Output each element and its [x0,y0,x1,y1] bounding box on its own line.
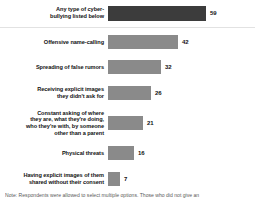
row-label-line: Physical threats [0,150,104,157]
table-row: Offensive name-calling 42 [0,32,255,52]
table-row: Having explicit images of them shared wi… [0,168,255,189]
bar-value-label: 32 [165,64,172,70]
row-label-line: Spreading of false rumors [0,64,104,71]
table-row: Any type of cyber- bullying listed below… [0,3,255,23]
bar-value-label: 59 [210,10,217,16]
table-row: Physical threats 16 [0,143,255,163]
row-label: Constant asking of where they are, what … [0,110,108,136]
bar [108,116,143,130]
table-row: Constant asking of where they are, what … [0,107,255,139]
row-label: Having explicit images of them shared wi… [0,172,108,185]
row-label-line: Receiving explicit images [0,86,104,93]
bar-area: 59 [108,3,255,23]
row-label-line: bullying listed below [0,13,104,20]
row-label: Any type of cyber- bullying listed below [0,6,108,19]
bar-value-label: 16 [138,150,145,156]
bar-area: 16 [108,143,255,163]
row-label-line: Having explicit images of them [0,172,104,179]
bar-chart: Any type of cyber- bullying listed below… [0,0,255,199]
bar-area: 7 [108,168,255,189]
bar-value-label: 21 [147,120,154,126]
bar-area: 26 [108,82,255,103]
bar [108,172,120,186]
bar [108,146,134,160]
table-row: Spreading of false rumors 32 [0,57,255,77]
row-label: Offensive name-calling [0,39,108,46]
row-label: Physical threats [0,150,108,157]
table-row: Receiving explicit images they didn't as… [0,82,255,103]
row-label-line: shared without their consent [0,179,104,186]
chart-rows: Any type of cyber- bullying listed below… [0,3,255,189]
row-label-line: Any type of cyber- [0,6,104,13]
bar [108,6,206,21]
chart-note: Note: Respondents were allowed to select… [5,192,253,198]
row-label-line: Constant asking of where [0,110,104,117]
bar-value-label: 7 [124,176,127,182]
bar [108,86,151,100]
bar-area: 32 [108,57,255,77]
bar [108,35,178,49]
row-label-line: Offensive name-calling [0,39,104,46]
row-label: Receiving explicit images they didn't as… [0,86,108,99]
bar-value-label: 42 [182,39,189,45]
bar-area: 21 [108,107,255,139]
bar-value-label: 26 [155,90,162,96]
row-label-line: other than a parent [0,130,104,137]
row-label-line: who they're with, by someone [0,123,104,130]
bar [108,60,161,74]
row-label-line: they are, what they're doing, [0,116,104,123]
bar-area: 42 [108,32,255,52]
row-label: Spreading of false rumors [0,64,108,71]
row-label-line: they didn't ask for [0,93,104,100]
